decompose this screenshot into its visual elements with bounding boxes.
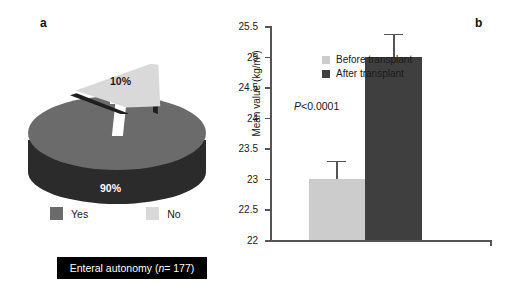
pie-legend-item-yes: Yes [50, 207, 88, 220]
panel-b-bar-chart: b Mean value (kg/m²) 25.5 25 24.5 24 23.… [232, 0, 517, 290]
x-axis-line [270, 240, 492, 242]
error-cap-after-transplant [384, 34, 403, 36]
pie-slice-no-exploded [70, 62, 164, 112]
panel-a-caption: Enteral autonomy (n = 177) [57, 257, 207, 279]
y-tick-22-5: 22.5 [265, 209, 270, 211]
y-tick-24-5: 24.5 [265, 87, 270, 89]
y-tick-label-25-5: 25.5 [239, 21, 258, 32]
y-tick-24: 24 [265, 118, 270, 120]
y-tick-label-22: 22 [247, 235, 258, 246]
panel-a-caption-suffix: = 177) [164, 262, 194, 274]
pie-label-yes: 90% [100, 182, 121, 194]
x-axis-end-tick [490, 240, 492, 246]
p-value-italic-p: P [294, 100, 301, 112]
bar-legend-label-before: Before transplant [336, 54, 412, 65]
pie-legend-swatch-yes [50, 207, 63, 220]
bar-before-transplant [309, 179, 365, 240]
bar-legend: Before transplant After transplant [322, 54, 412, 82]
panel-a-caption-prefix: Enteral autonomy ( [70, 262, 159, 274]
panel-label-a: a [40, 16, 47, 30]
panel-a-pie-chart: a 10% 90% Yes No [0, 0, 232, 290]
bar-legend-item-after: After transplant [322, 68, 412, 79]
bar-legend-swatch-after [322, 70, 330, 78]
y-tick-label-24: 24 [247, 112, 258, 123]
pie-label-no: 10% [110, 75, 131, 87]
y-tick-23: 23 [265, 179, 270, 181]
y-tick-label-23: 23 [247, 173, 258, 184]
pie-legend-swatch-no [146, 207, 159, 220]
figure-root: a 10% 90% Yes No [0, 0, 517, 290]
y-tick-label-23-5: 23.5 [239, 143, 258, 154]
y-tick-22: 22 [265, 240, 270, 242]
bar-legend-label-after: After transplant [336, 68, 404, 79]
pie-legend-label-no: No [167, 208, 180, 220]
y-tick-25-5: 25.5 [265, 26, 270, 28]
y-tick-23-5: 23.5 [265, 148, 270, 150]
error-bar-before-transplant [336, 162, 338, 179]
bar-legend-item-before: Before transplant [322, 54, 412, 65]
y-tick-label-24-5: 24.5 [239, 82, 258, 93]
error-cap-before-transplant [327, 161, 346, 163]
pie-legend-item-no: No [146, 207, 180, 220]
y-axis-line [270, 26, 272, 240]
p-value-text: <0.0001 [301, 100, 339, 112]
bar-legend-swatch-before [322, 56, 330, 64]
pie-chart-graphic: 10% 90% [14, 58, 219, 188]
y-tick-25: 25 [265, 57, 270, 59]
y-tick-label-25: 25 [247, 51, 258, 62]
y-tick-label-22-5: 22.5 [239, 204, 258, 215]
pie-legend-label-yes: Yes [71, 208, 88, 220]
pie-legend: Yes No [50, 207, 181, 220]
bar-plot-area: 25.5 25 24.5 24 23.5 23 22.5 22 [270, 26, 492, 240]
bar-after-transplant [365, 57, 422, 240]
p-value-annotation: P<0.0001 [294, 100, 339, 112]
